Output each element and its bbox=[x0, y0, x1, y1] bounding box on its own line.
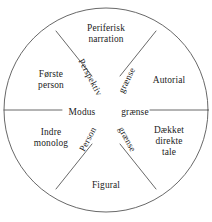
sector-label-periferisk-narration: Periferisk narration bbox=[61, 23, 151, 45]
axis-label-graense-center: grænse bbox=[108, 107, 162, 118]
sector-label-indre-monolog: Indre monolog bbox=[19, 127, 83, 149]
axis-label-modus: Modus bbox=[55, 107, 109, 118]
sector-label-autorial: Autorial bbox=[136, 75, 202, 86]
sector-label-foerste-person: Første person bbox=[20, 69, 82, 91]
sector-label-daekket-direkte-tale: Dækket direkte tale bbox=[136, 125, 202, 158]
sector-label-figural: Figural bbox=[64, 180, 148, 191]
narratology-wheel-diagram: Periferisk narration Autorial Dækket dir… bbox=[0, 0, 212, 222]
